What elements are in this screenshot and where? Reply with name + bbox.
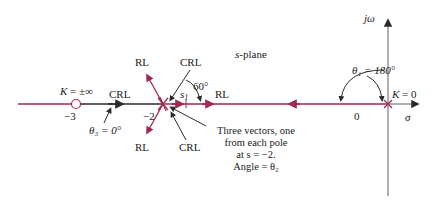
test-point-label: s1 xyxy=(180,88,188,102)
rl-lower-label: RL xyxy=(135,141,149,153)
origin-label: 0 xyxy=(354,110,360,122)
note-line-4: Angle = θ₂ xyxy=(233,161,279,172)
zero-position-label: −3 xyxy=(64,110,76,122)
crl-lower-pointer xyxy=(172,114,186,140)
theta1-label: θ₁ = 180° xyxy=(352,64,396,76)
real-axis-label: σ xyxy=(405,111,411,123)
sixty-degree-label: 60° xyxy=(193,80,208,92)
root-locus-diagram: jω σ 0 −3 K = ±∞ −2 K = 0 RL CRL RL CRL … xyxy=(0,0,432,208)
imaginary-axis-label: jω xyxy=(362,12,375,24)
theta3-label: θ₃ = 0° xyxy=(89,124,122,136)
pole-vectors-note: Three vectors, one from each pole at s =… xyxy=(217,125,295,172)
zero-marker xyxy=(72,100,81,109)
real-axis: σ 0 xyxy=(354,104,418,123)
note-line-1: Three vectors, one xyxy=(217,125,295,136)
plane-title: s-plane xyxy=(235,48,267,60)
zero-gain-label: K = ±∞ xyxy=(59,85,93,97)
note-line-3: at s = −2. xyxy=(236,149,275,160)
theta1-arc-right-arrow xyxy=(367,76,382,99)
note-line-2: from each pole xyxy=(225,137,288,148)
theta3-pointer xyxy=(104,110,110,123)
origin-gain-label: K = 0 xyxy=(391,88,417,100)
crl-lower-label: CRL xyxy=(179,141,201,153)
pole-position-label: −2 xyxy=(143,110,155,122)
rl-upper-label: RL xyxy=(135,56,149,68)
crl-upper-label: CRL xyxy=(180,56,202,68)
rl-right-label: RL xyxy=(215,88,229,100)
crl-left-label: CRL xyxy=(109,88,131,100)
